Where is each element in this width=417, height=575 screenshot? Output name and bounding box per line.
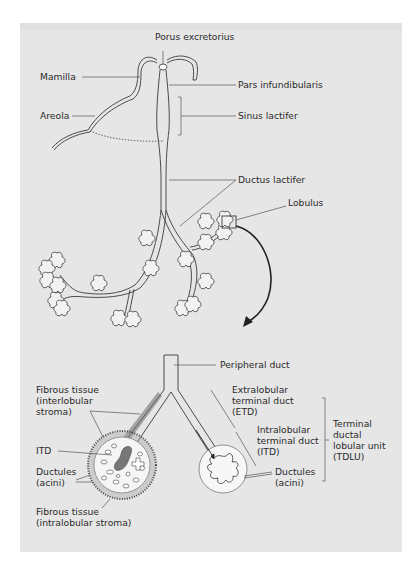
label-areola: Areola — [40, 110, 69, 121]
label-ductus-lactifer: Ductus lactifer — [238, 174, 305, 185]
label-tdlu: Terminal ductal lobular unit (TDLU) — [333, 418, 386, 462]
label-intralobular-terminal-duct: Intralobular terminal duct (ITD) — [257, 424, 319, 457]
label-porus-excretorius: Porus excretorius — [155, 31, 234, 42]
label-mamilla: Mamilla — [40, 71, 76, 82]
label-lobulus: Lobulus — [288, 197, 323, 208]
label-fibrous-tissue-interlobular: Fibrous tissue (interlobular stroma) — [36, 384, 99, 417]
lobules — [39, 211, 233, 327]
label-peripheral-duct: Peripheral duct — [220, 359, 290, 370]
label-sinus-lactifer: Sinus lactifer — [238, 110, 298, 121]
leader-lines-top — [72, 51, 286, 226]
label-pars-infundibularis: Pars infundibularis — [238, 79, 323, 90]
label-ductules-right: Ductules (acini) — [275, 466, 315, 488]
magnify-arrow — [236, 226, 271, 322]
breast-duct-anatomy-drawing — [0, 0, 417, 575]
main-duct — [157, 70, 170, 210]
label-fibrous-tissue-intralobular: Fibrous tissue (intralobular stroma) — [36, 506, 131, 528]
porus-opening — [159, 64, 167, 70]
label-ductules-left: Ductules (acini) — [36, 466, 76, 488]
lobule-right — [199, 445, 247, 493]
areola-boundary-dotted — [90, 131, 164, 141]
label-extralobular-terminal-duct: Extralobular terminal duct (ETD) — [232, 384, 294, 417]
magnify-arrowhead — [243, 316, 253, 327]
label-itd-left: ITD — [36, 445, 51, 456]
